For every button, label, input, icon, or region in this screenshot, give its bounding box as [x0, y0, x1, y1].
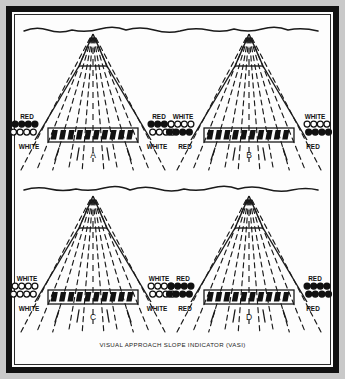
vasi-light-red [167, 291, 173, 297]
vasi-light-red [173, 291, 179, 297]
vasi-light-white [168, 121, 174, 127]
vasi-label-lower: WHITE [19, 143, 40, 150]
vasi-light-red [148, 121, 154, 127]
vasi-light-red [188, 283, 194, 289]
vasi-light-white [17, 291, 23, 297]
figure-page: AREDWHITEREDWHITE BWHITEREDWHITERED CWHI… [0, 0, 345, 379]
vasi-light-white [11, 291, 17, 297]
vasi-light-red [319, 129, 325, 135]
light-row-upper [168, 283, 194, 289]
vasi-panel-c: CWHITEWHITEWHITEWHITE [18, 190, 168, 340]
vasi-panel-a-graphic: AREDWHITEREDWHITE [18, 28, 168, 178]
vasi-light-white [12, 283, 18, 289]
light-row-lower [167, 291, 193, 297]
vasi-light-white [175, 121, 181, 127]
vasi-label-upper: WHITE [149, 275, 170, 282]
vasi-light-white [156, 291, 162, 297]
light-row-lower [167, 129, 193, 135]
light-row-upper [304, 283, 330, 289]
light-row-lower [11, 129, 37, 135]
vasi-label-lower: RED [306, 143, 320, 150]
panel-letter: C [90, 312, 96, 322]
vasi-light-red [180, 291, 186, 297]
vasi-panel-d-graphic: DREDREDREDRED [174, 190, 324, 340]
vasi-panel-d: DREDREDREDRED [174, 190, 324, 340]
vasi-label-lower: WHITE [147, 305, 168, 312]
vasi-light-white [30, 291, 36, 297]
vasi-label-upper: RED [176, 275, 190, 282]
figure-caption: VISUAL APPROACH SLOPE INDICATOR (VASI) [14, 341, 331, 348]
panel-letter: B [246, 150, 252, 160]
vasi-light-white [17, 129, 23, 135]
vasi-label-upper: WHITE [173, 113, 194, 120]
vasi-light-unit-left: REDWHITE [11, 113, 41, 150]
vasi-light-white [19, 283, 25, 289]
vasi-light-red [181, 283, 187, 289]
vasi-light-red [168, 283, 174, 289]
vasi-light-unit-right: WHITERED [304, 113, 331, 150]
vasi-light-red [326, 291, 332, 297]
vasi-light-red [32, 121, 38, 127]
vasi-light-white [150, 129, 156, 135]
light-row-upper [12, 283, 38, 289]
vasi-light-red [12, 121, 18, 127]
vasi-label-lower: RED [178, 143, 192, 150]
vasi-light-red [173, 129, 179, 135]
vasi-light-red [304, 283, 310, 289]
vasi-light-white [24, 291, 30, 297]
vasi-light-red [155, 121, 161, 127]
vasi-light-red [306, 291, 312, 297]
vasi-label-lower: RED [178, 305, 192, 312]
vasi-light-white [181, 121, 187, 127]
vasi-light-red [161, 121, 167, 127]
vasi-light-red [186, 291, 192, 297]
light-row-lower [11, 291, 37, 297]
vasi-light-unit-left: WHITEWHITE [11, 275, 41, 312]
vasi-light-white [24, 129, 30, 135]
vasi-light-white [32, 283, 38, 289]
vasi-light-white [30, 129, 36, 135]
vasi-light-red [306, 129, 312, 135]
vasi-light-red [312, 129, 318, 135]
vasi-light-white [311, 121, 317, 127]
figure-canvas: AREDWHITEREDWHITE BWHITEREDWHITERED CWHI… [14, 14, 331, 365]
vasi-light-white [161, 283, 167, 289]
vasi-light-red [311, 283, 317, 289]
vasi-light-red [317, 283, 323, 289]
light-row-lower [306, 129, 332, 135]
vasi-panel-c-graphic: CWHITEWHITEWHITEWHITE [18, 190, 168, 340]
vasi-light-red [186, 129, 192, 135]
vasi-light-white [304, 121, 310, 127]
vasi-light-red [167, 129, 173, 135]
vasi-light-red [25, 121, 31, 127]
vasi-light-red [326, 129, 332, 135]
vasi-panel-a: AREDWHITEREDWHITE [18, 28, 168, 178]
panel-letter: D [246, 312, 252, 322]
vasi-label-upper: RED [20, 113, 34, 120]
vasi-light-red [324, 283, 330, 289]
vasi-label-upper: RED [152, 113, 166, 120]
vasi-light-white [148, 283, 154, 289]
light-row-upper [168, 121, 194, 127]
vasi-label-lower: WHITE [19, 305, 40, 312]
vasi-light-white [324, 121, 330, 127]
light-row-upper [12, 121, 38, 127]
vasi-light-red [19, 121, 25, 127]
vasi-light-red [319, 291, 325, 297]
vasi-light-white [25, 283, 31, 289]
vasi-light-white [11, 129, 17, 135]
vasi-label-lower: WHITE [147, 143, 168, 150]
vasi-light-white [155, 283, 161, 289]
vasi-light-white [150, 291, 156, 297]
vasi-light-white [156, 129, 162, 135]
panel-letter: A [90, 150, 96, 160]
vasi-label-upper: WHITE [17, 275, 38, 282]
vasi-light-red [180, 129, 186, 135]
vasi-light-unit-right: REDRED [304, 275, 331, 312]
vasi-light-unit-left: WHITERED [167, 113, 195, 150]
vasi-panel-b: BWHITEREDWHITERED [174, 28, 324, 178]
vasi-light-white [188, 121, 194, 127]
vasi-light-unit-left: REDRED [167, 275, 194, 312]
vasi-light-red [175, 283, 181, 289]
vasi-light-red [312, 291, 318, 297]
